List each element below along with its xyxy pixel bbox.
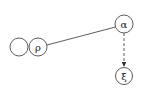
node-empty [10,38,28,56]
node-xi: ξ [116,68,133,85]
node-alpha-label: α [121,19,128,30]
node-rho: ρ [29,38,47,56]
edge-rho-alpha [47,27,116,45]
node-xi-label: ξ [121,71,127,82]
diagram-canvas: ρ α ξ [0,0,143,92]
node-rho-label: ρ [35,42,41,53]
node-alpha: α [115,15,133,33]
